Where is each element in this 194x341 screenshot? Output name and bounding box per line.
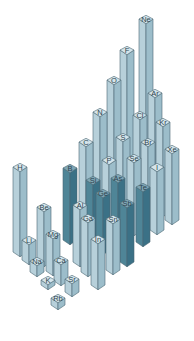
element-symbol-label: Na <box>32 257 42 266</box>
element-symbol-label: Rb <box>53 294 63 303</box>
bar-left-face <box>120 203 127 267</box>
element-symbol-label: Cl <box>136 111 143 120</box>
bar-right-face <box>172 149 179 225</box>
element-symbol-label: F <box>125 46 130 55</box>
bar-right-face <box>113 219 120 275</box>
bars-canvas: NeArFClKrOXeBrNSICPSeBSiAsTeGeHLiBeAlSbS… <box>0 0 194 341</box>
bar-in: In <box>91 235 105 290</box>
element-symbol-label: I <box>156 163 158 172</box>
element-symbol-label: S <box>120 133 125 142</box>
bar-left-face <box>63 168 70 245</box>
element-symbol-label: Te <box>139 183 147 192</box>
bar-sn: Sn <box>106 215 120 275</box>
bar-right-face <box>127 203 134 267</box>
element-symbol-label: K <box>45 276 50 285</box>
element-symbol-label: Se <box>129 154 138 163</box>
bar-left-face <box>13 167 20 257</box>
element-symbol-label: Ne <box>141 15 151 24</box>
bar-xe: Xe <box>165 145 179 225</box>
element-symbol-label: Sb <box>122 199 131 208</box>
bar-left-face <box>91 239 98 290</box>
bar-right-face <box>143 187 150 247</box>
element-symbol-label: As <box>114 174 123 183</box>
bar-left-face <box>46 234 53 276</box>
electronegativity-3d-bar-chart: NeArFClKrOXeBrNSICPSeBSiAsTeGeHLiBeAlSbS… <box>0 0 194 341</box>
element-symbol-label: Mg <box>48 230 58 239</box>
bar-left-face <box>136 187 143 247</box>
element-symbol-label: Ge <box>98 189 108 198</box>
element-symbol-label: In <box>95 235 101 244</box>
element-symbol-label: Be <box>39 203 48 212</box>
element-symbol-label: Sn <box>108 215 117 224</box>
element-symbol-label: Ga <box>83 214 94 223</box>
element-symbol-label: Ca <box>56 256 66 265</box>
bar-i: I <box>150 163 164 235</box>
element-symbol-label: C <box>83 138 89 147</box>
bar-sb: Sb <box>120 199 134 267</box>
bar-na: Na <box>30 257 44 277</box>
bar-right-face <box>98 239 105 290</box>
bar-right-face <box>157 167 164 235</box>
bar-left-face <box>106 219 113 275</box>
bar-k: K <box>41 276 55 290</box>
bar-left-face <box>73 205 80 267</box>
element-symbol-label: H <box>17 163 22 172</box>
element-symbol-label: B <box>67 164 72 173</box>
element-symbol-label: Si <box>90 176 97 185</box>
element-symbol-label: Sr <box>68 275 76 284</box>
bar-rb: Rb <box>51 294 65 310</box>
element-symbol-label: Al <box>77 201 84 210</box>
bar-left-face <box>165 149 172 225</box>
element-symbol-label: Ar <box>151 89 159 98</box>
bar-te: Te <box>136 183 150 247</box>
element-symbol-label: Kr <box>159 118 167 127</box>
element-symbol-label: Br <box>144 138 152 147</box>
element-symbol-label: N <box>97 108 102 117</box>
bar-left-face <box>150 167 157 235</box>
element-symbol-label: Xe <box>167 145 176 154</box>
bar-sr: Sr <box>65 275 79 297</box>
element-symbol-label: Li <box>26 236 32 245</box>
bar-left-face <box>81 218 88 277</box>
element-symbol-label: P <box>106 156 111 165</box>
element-symbol-label: O <box>111 76 117 85</box>
